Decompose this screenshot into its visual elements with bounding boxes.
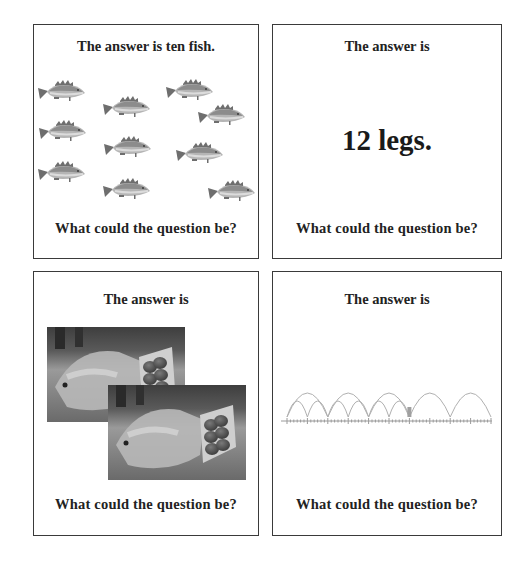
fish-icon <box>38 119 88 143</box>
fish-icon <box>102 95 152 119</box>
fish-icon <box>102 177 152 201</box>
fish-icon <box>103 135 153 159</box>
card-title: The answer is ten fish. <box>34 38 258 55</box>
answer-text: 12 legs. <box>273 124 501 157</box>
card-title: The answer is <box>34 291 258 308</box>
fish-icon <box>197 103 247 127</box>
fish-icon <box>165 78 215 102</box>
card-legs: The answer is 12 legs. What could the qu… <box>272 24 502 259</box>
card-title: The answer is <box>273 38 501 55</box>
fish-icon <box>37 79 87 103</box>
fish-icon <box>207 179 257 203</box>
card-number-line: The answer is What could the question be… <box>272 271 502 536</box>
egg-carton-photo-2 <box>108 385 246 480</box>
card-question: What could the question be? <box>34 220 258 237</box>
card-question: What could the question be? <box>273 496 501 513</box>
egg-carton-image <box>108 385 246 480</box>
card-question: What could the question be? <box>273 220 501 237</box>
fish-icon <box>175 141 225 165</box>
card-title: The answer is <box>273 291 501 308</box>
card-question: What could the question be? <box>34 496 258 513</box>
fish-icon <box>37 160 87 184</box>
